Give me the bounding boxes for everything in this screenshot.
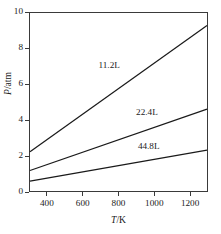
y-tick-label: 10 bbox=[14, 5, 23, 18]
y-tick-label: 0 bbox=[18, 185, 23, 198]
x-tick-label: 600 bbox=[63, 197, 103, 210]
series-line bbox=[30, 150, 207, 181]
chart-figure: 0246810 P/atm 40060080010001200 T/K 11.2… bbox=[0, 0, 221, 234]
x-tick-mark bbox=[190, 192, 191, 196]
x-axis-title-unit: /K bbox=[116, 214, 126, 225]
y-tick-label: 8 bbox=[18, 41, 23, 54]
x-tick-mark bbox=[46, 192, 47, 196]
x-tick-label: 800 bbox=[99, 197, 139, 210]
x-axis-title: T/K bbox=[29, 214, 208, 225]
series-lines bbox=[30, 13, 207, 191]
plot-area bbox=[29, 12, 208, 192]
y-axis-title: P/atm bbox=[2, 56, 13, 112]
x-tick-mark bbox=[118, 192, 119, 196]
series-label-11-2l: 11.2L bbox=[99, 59, 120, 71]
y-axis-title-symbol: P bbox=[2, 89, 13, 95]
x-tick-label: 1200 bbox=[170, 197, 210, 210]
caption-fragment bbox=[10, 227, 215, 234]
series-line bbox=[30, 25, 207, 151]
y-tick-label: 6 bbox=[18, 77, 23, 90]
x-tick-mark bbox=[82, 192, 83, 196]
x-tick-mark bbox=[154, 192, 155, 196]
series-label-44-8l: 44.8L bbox=[138, 140, 160, 152]
x-tick-label: 1000 bbox=[134, 197, 174, 210]
y-tick-label: 4 bbox=[18, 113, 23, 126]
x-tick-label: 400 bbox=[27, 197, 67, 210]
series-label-22-4l: 22.4L bbox=[136, 106, 158, 118]
y-axis-title-unit: /atm bbox=[2, 72, 13, 89]
series-line bbox=[30, 109, 207, 170]
y-tick-label: 2 bbox=[18, 149, 23, 162]
